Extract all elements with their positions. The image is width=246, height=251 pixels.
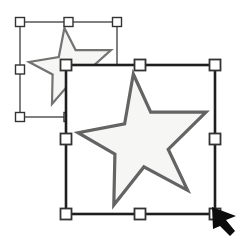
small-selection-handle-sw[interactable] <box>16 113 25 122</box>
large-selection-handle-nw[interactable] <box>61 60 72 71</box>
small-selection-handle-ne[interactable] <box>113 18 122 27</box>
large-selection-handle-sw[interactable] <box>61 209 72 220</box>
large-selection-handle-s[interactable] <box>135 209 146 220</box>
small-selection-handle-nw[interactable] <box>16 18 25 27</box>
drawing-canvas <box>0 0 246 251</box>
small-selection-handle-w[interactable] <box>16 65 25 74</box>
large-selection-handle-e[interactable] <box>210 134 221 145</box>
large-selection-handle-w[interactable] <box>61 134 72 145</box>
large-selection-handle-n[interactable] <box>135 60 146 71</box>
canvas-svg <box>0 0 246 251</box>
large-selection-handle-ne[interactable] <box>210 60 221 71</box>
small-selection-handle-n[interactable] <box>64 18 73 27</box>
